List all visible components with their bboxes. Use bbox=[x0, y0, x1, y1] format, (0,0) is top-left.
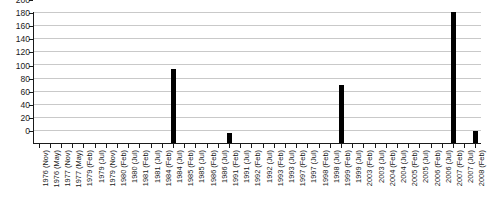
x-tick-mark bbox=[330, 144, 331, 148]
x-tick-mark bbox=[386, 144, 387, 148]
x-tick-mark bbox=[195, 144, 196, 148]
bar bbox=[227, 133, 232, 143]
x-tick-label: 1977 (May) bbox=[75, 150, 82, 187]
x-tick-mark bbox=[61, 144, 62, 148]
y-tick-label: 100 bbox=[16, 62, 30, 71]
x-tick-mark bbox=[139, 144, 140, 148]
x-tick-mark bbox=[240, 144, 241, 148]
plot-area bbox=[33, 12, 481, 143]
x-tick-mark bbox=[50, 144, 51, 148]
x-tick-label: 2007 (Jul) bbox=[467, 150, 474, 183]
x-tick-label: 1976 (May) bbox=[53, 150, 60, 187]
x-tick-label: 2004 (Jul) bbox=[400, 150, 407, 183]
x-tick-label: 1976 (Nov) bbox=[42, 150, 49, 187]
x-tick-label: 1986 (Feb) bbox=[210, 150, 217, 186]
x-tick-mark bbox=[341, 144, 342, 148]
x-tick-mark bbox=[296, 144, 297, 148]
x-tick-label: 1980 (Feb) bbox=[120, 150, 127, 186]
x-tick-mark bbox=[251, 144, 252, 148]
x-tick-mark bbox=[307, 144, 308, 148]
x-tick-mark bbox=[464, 144, 465, 148]
y-tick-label: 0 bbox=[25, 127, 30, 136]
x-tick-label: 2005 (Jul) bbox=[422, 150, 429, 183]
y-tick-label: 160 bbox=[16, 22, 30, 31]
x-tick-mark bbox=[375, 144, 376, 148]
x-tick-label: 1991 (Feb) bbox=[232, 150, 239, 186]
x-tick-label: 2005 (Feb) bbox=[411, 150, 418, 186]
y-tick-label: 60 bbox=[21, 88, 30, 97]
x-tick-mark bbox=[106, 144, 107, 148]
x-tick-mark bbox=[319, 144, 320, 148]
x-tick-label: 1980 (Jul) bbox=[131, 150, 138, 183]
x-tick-label: 1981 (Jul) bbox=[154, 150, 161, 183]
bar-chart: 020406080100120140160180200 1976 (Nov)19… bbox=[0, 0, 490, 210]
x-tick-mark bbox=[363, 144, 364, 148]
x-tick-mark bbox=[128, 144, 129, 148]
x-tick-mark bbox=[274, 144, 275, 148]
bar bbox=[339, 85, 344, 143]
y-tick-label: 20 bbox=[21, 114, 30, 123]
x-tick-mark bbox=[419, 144, 420, 148]
x-tick-label: 1998 (Jul) bbox=[333, 150, 340, 183]
x-tick-label: 1997 (Jul) bbox=[310, 150, 317, 183]
x-tick-label: 1997 (Feb) bbox=[299, 150, 306, 186]
x-tick-label: 2006 (Jul) bbox=[445, 150, 452, 183]
x-tick-mark bbox=[72, 144, 73, 148]
x-tick-mark bbox=[117, 144, 118, 148]
x-tick-label: 2007 (Feb) bbox=[456, 150, 463, 186]
x-tick-label: 1986 (Jul) bbox=[221, 150, 228, 183]
bar bbox=[473, 131, 478, 143]
x-tick-label: 1993 (Jul) bbox=[288, 150, 295, 183]
x-tick-label: 1999 (Jul) bbox=[355, 150, 362, 183]
x-tick-mark bbox=[475, 144, 476, 148]
bar bbox=[171, 69, 176, 143]
x-tick-label: 1984 (Jul) bbox=[176, 150, 183, 183]
x-tick-mark bbox=[151, 144, 152, 148]
x-tick-mark bbox=[408, 144, 409, 148]
x-tick-label: 1992 (Feb) bbox=[254, 150, 261, 186]
x-tick-mark bbox=[184, 144, 185, 148]
y-axis-ticks: 020406080100120140160180200 bbox=[0, 0, 30, 131]
gridline bbox=[33, 38, 481, 39]
x-tick-label: 1992 (Jul) bbox=[266, 150, 273, 183]
y-tick-label: 180 bbox=[16, 9, 30, 18]
gridline bbox=[33, 51, 481, 52]
x-tick-mark bbox=[229, 144, 230, 148]
gridline bbox=[33, 78, 481, 79]
x-tick-label: 2004 (Feb) bbox=[389, 150, 396, 186]
x-tick-mark bbox=[218, 144, 219, 148]
x-tick-label: 1984 (Feb) bbox=[165, 150, 172, 186]
x-tick-label: 2008 (Feb) bbox=[478, 150, 485, 186]
x-tick-label: 1979 (Nov) bbox=[109, 150, 116, 187]
x-tick-label: 1998 (Feb) bbox=[322, 150, 329, 186]
y-tick-label: 40 bbox=[21, 101, 30, 110]
x-tick-label: 1979 (Jul) bbox=[98, 150, 105, 183]
x-tick-mark bbox=[431, 144, 432, 148]
x-tick-mark bbox=[207, 144, 208, 148]
bar bbox=[451, 12, 456, 143]
x-tick-label: 1985 (Jul) bbox=[198, 150, 205, 183]
x-tick-label: 2003 (Feb) bbox=[366, 150, 373, 186]
x-tick-mark bbox=[453, 144, 454, 148]
x-tick-mark bbox=[39, 144, 40, 148]
gridline bbox=[33, 104, 481, 105]
x-axis-line bbox=[33, 143, 481, 144]
x-tick-mark bbox=[442, 144, 443, 148]
x-tick-mark bbox=[173, 144, 174, 148]
y-tick-label: 80 bbox=[21, 75, 30, 84]
x-tick-label: 1993 (Feb) bbox=[277, 150, 284, 186]
gridline bbox=[33, 91, 481, 92]
gridline bbox=[33, 12, 481, 13]
x-tick-mark bbox=[263, 144, 264, 148]
y-tick-label: 200 bbox=[16, 0, 30, 5]
x-tick-mark bbox=[162, 144, 163, 148]
x-tick-label: 1977 (Nov) bbox=[64, 150, 71, 187]
x-tick-label: 1991 (Jul) bbox=[243, 150, 250, 183]
y-tick-label: 140 bbox=[16, 35, 30, 44]
x-tick-mark bbox=[83, 144, 84, 148]
x-tick-mark bbox=[352, 144, 353, 148]
x-tick-mark bbox=[397, 144, 398, 148]
x-tick-mark bbox=[95, 144, 96, 148]
gridline bbox=[33, 25, 481, 26]
y-tick-label: 120 bbox=[16, 48, 30, 57]
